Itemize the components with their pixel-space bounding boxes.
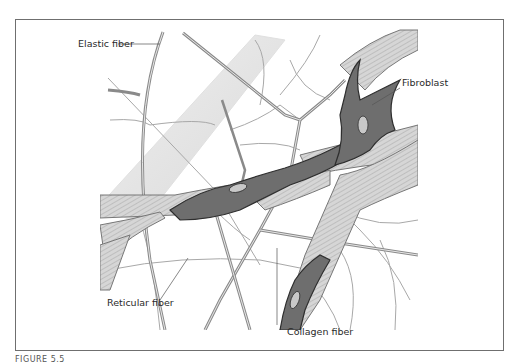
figure-caption: FIGURE 5.5 bbox=[15, 355, 65, 364]
elastic-fiber-label: Elastic fiber bbox=[78, 38, 134, 49]
collagen-fiber-label: Collagen fiber bbox=[287, 326, 353, 337]
fibroblast-label: Fibroblast bbox=[402, 77, 448, 88]
reticular-fiber-label: Reticular fiber bbox=[107, 297, 174, 308]
